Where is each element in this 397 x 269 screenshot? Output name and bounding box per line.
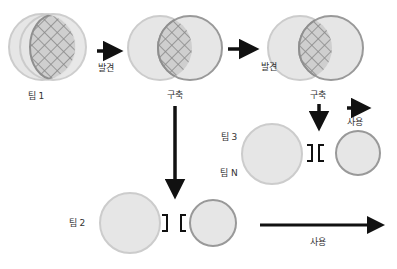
team3-big-circle [242,124,302,184]
label-build-2: 구축 [310,88,326,101]
venn-build-1 [128,16,222,80]
interface-connector-icon [307,145,324,161]
label-discover-2: 발견 [261,60,277,73]
team2-big-circle [100,193,160,253]
venn-team1 [9,14,86,80]
team3-small-circle [336,131,380,175]
label-teamN: 팀 N [220,166,238,179]
label-discover-1: 발견 [98,61,114,74]
interface-connector-icon [162,215,186,231]
label-use-2: 사용 [310,235,326,248]
label-team2: 팀 2 [69,216,86,229]
label-team1: 팀 1 [28,89,45,102]
label-build-1: 구축 [167,88,183,101]
label-use-1: 사용 [347,115,363,128]
diagram-canvas [0,0,397,269]
team2-group [100,193,236,253]
venn-build-2 [268,16,363,80]
team3-group [242,124,380,184]
team2-small-circle [190,200,236,246]
label-team3: 팀 3 [221,130,238,143]
